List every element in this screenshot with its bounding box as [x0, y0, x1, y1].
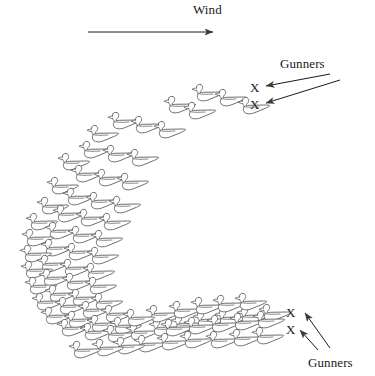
decoy-duck [183, 101, 217, 120]
decoy-duck [153, 120, 187, 139]
gunner-marker-top-1: X [250, 81, 259, 94]
gunner-arrow-1 [266, 74, 330, 86]
decoy-duck [126, 148, 160, 167]
gunner-arrow-4 [300, 330, 318, 350]
gunner-marker-bottom-1: X [286, 306, 295, 319]
gunners-label-top: Gunners [280, 57, 325, 70]
gunners-label-bottom: Gunners [308, 356, 353, 369]
gunner-marker-top-2: X [250, 98, 259, 111]
decoy-duck [68, 340, 102, 359]
wind-label: Wind [193, 3, 222, 16]
gunner-arrow-3 [305, 313, 330, 348]
decoy-duck [122, 308, 156, 327]
decoy-duck [116, 172, 150, 191]
gunner-marker-bottom-2: X [286, 323, 295, 336]
decoy-spread-diagram: Wind Gunners Gunners X X X X [0, 0, 375, 376]
decoy-duck [251, 326, 285, 345]
